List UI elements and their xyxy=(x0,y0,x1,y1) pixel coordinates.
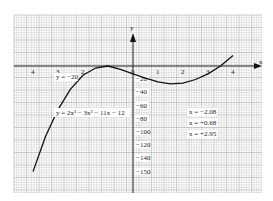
x-axis-label: x xyxy=(259,58,263,66)
y-tick-label: −80 xyxy=(136,115,147,123)
y-tick-label: −100 xyxy=(136,128,151,136)
chart-plot: x y 43201234−20−40−60−80−100−120−140−150… xyxy=(0,0,273,201)
x-tick-label: 1 xyxy=(156,68,160,76)
y-annotation-group: y = −20 xyxy=(54,73,78,81)
y-tick-label: −120 xyxy=(136,141,151,149)
equation-label: y = 2x³ − 3x² − 11x − 12 xyxy=(56,109,125,117)
roots-box: x = −2.08 x = +0.68 x = +2.95 xyxy=(187,108,217,138)
root-1: x = −2.08 xyxy=(189,108,217,116)
x-tick-label: 4 xyxy=(231,68,235,76)
y-tick-label: −150 xyxy=(136,168,151,176)
y-tick-label: −40 xyxy=(136,88,147,96)
root-3: x = +2.95 xyxy=(189,130,217,138)
root-2: x = +0.68 xyxy=(189,119,217,127)
y-axis-label: y xyxy=(130,24,134,32)
y-tick-label: −60 xyxy=(136,102,147,110)
equation-label-group: y = 2x³ − 3x² − 11x − 12 xyxy=(54,108,130,117)
y-annotation: y = −20 xyxy=(56,73,78,81)
x-tick-label: 4 xyxy=(31,68,35,76)
y-tick-label: −140 xyxy=(136,154,151,162)
x-tick-label: 2 xyxy=(181,68,185,76)
